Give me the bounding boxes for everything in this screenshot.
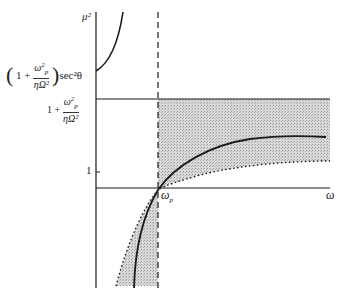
omega-p-label: ωp	[161, 188, 173, 204]
shaded-region-upper	[158, 99, 330, 190]
upper-numerator: ω2p	[33, 60, 49, 79]
middle-prefix: 1 +	[47, 104, 60, 115]
middle-num-text: ω	[64, 96, 71, 107]
upper-denominator: ηΩ²	[34, 79, 49, 90]
tick-label-one-text: 1	[86, 164, 92, 176]
middle-num-sub: p	[74, 102, 78, 110]
upper-num-sub: p	[45, 68, 49, 76]
middle-denominator: ηΩ²	[63, 113, 78, 124]
y-axis-label: μ²	[82, 10, 91, 22]
shaded-region-lower	[116, 190, 158, 286]
tick-label-one: 1	[86, 164, 92, 176]
diagram-canvas	[0, 0, 343, 292]
y-axis-label-text: μ²	[82, 10, 91, 22]
upper-prefix: 1 +	[16, 69, 30, 81]
middle-fraction: ω2p ηΩ²	[63, 94, 79, 124]
middle-numerator: ω2p	[63, 94, 79, 113]
upper-fraction: ω2p ηΩ²	[33, 60, 49, 90]
x-axis-label-text: ω	[326, 188, 334, 202]
upper-branch-curve	[96, 12, 123, 71]
upper-suffix: sec²θ	[59, 69, 82, 81]
omega-p-sub: p	[169, 196, 173, 204]
x-axis-label: ω	[326, 188, 334, 203]
upper-expression-label: ( 1 + ω2p ηΩ² )sec²θ	[6, 60, 82, 90]
middle-expression-label: 1 + ω2p ηΩ²	[47, 94, 79, 124]
open-paren: (	[6, 62, 13, 87]
